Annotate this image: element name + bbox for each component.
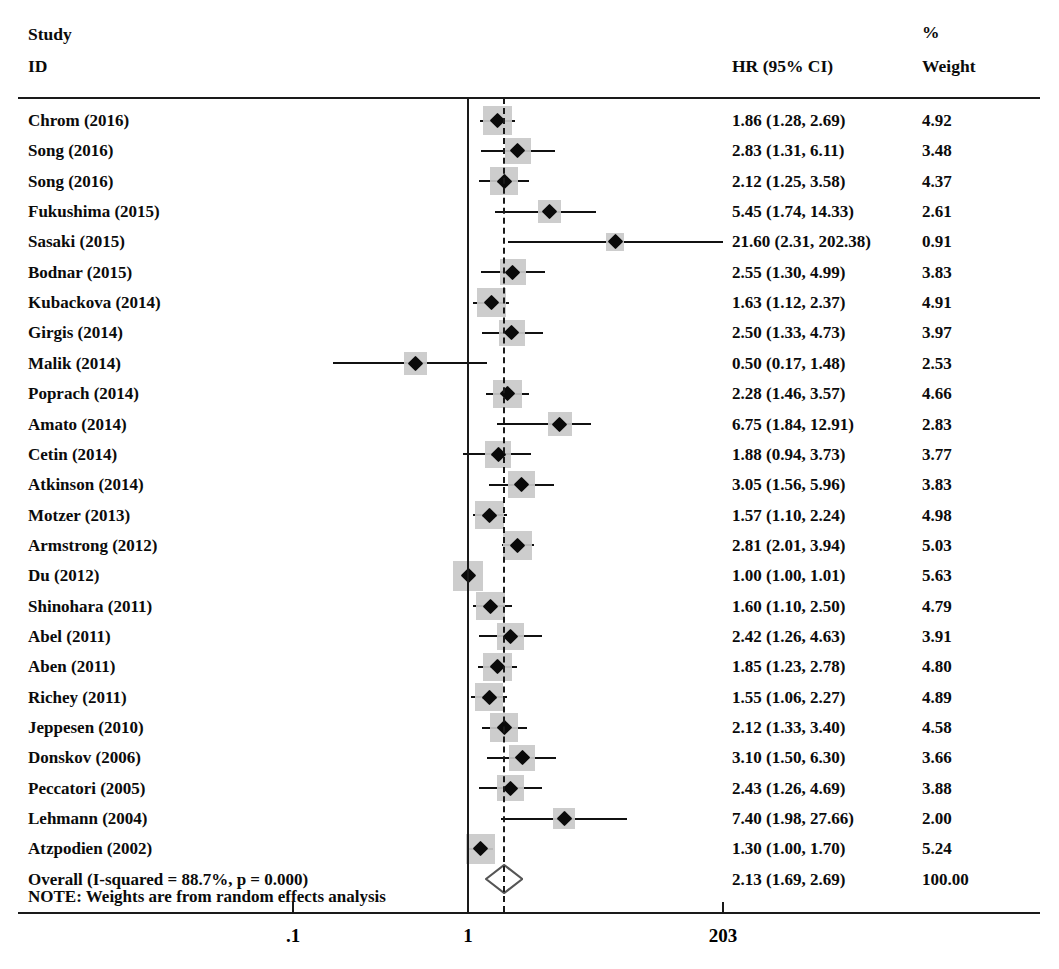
axis-tick-label: 1 (463, 925, 473, 947)
hr-value: 2.12 (1.33, 3.40) (732, 719, 845, 736)
study-label: Motzer (2013) (28, 507, 130, 524)
hr-value: 3.05 (1.56, 5.96) (732, 476, 845, 493)
hr-value: 5.45 (1.74, 14.33) (732, 203, 854, 220)
study-label: Aben (2011) (28, 658, 115, 675)
study-label: Poprach (2014) (28, 385, 139, 402)
header-study-line2: ID (28, 58, 47, 76)
hr-value: 1.55 (1.06, 2.27) (732, 689, 845, 706)
hr-value: 1.60 (1.10, 2.50) (732, 598, 845, 615)
study-label: Song (2016) (28, 173, 113, 190)
hr-value: 2.81 (2.01, 3.94) (732, 537, 845, 554)
weight-value: 3.66 (922, 749, 952, 766)
study-label: Chrom (2016) (28, 112, 129, 129)
forest-plot: Study ID HR (95% CI) % Weight Chrom (201… (0, 0, 1059, 969)
study-label: Donskov (2006) (28, 749, 141, 766)
weight-value: 3.48 (922, 142, 952, 159)
hr-value: 1.86 (1.28, 2.69) (732, 112, 845, 129)
axis-tick-label: 203 (709, 925, 738, 947)
header-study-line1: Study (28, 26, 72, 44)
study-label: Richey (2011) (28, 689, 127, 706)
weight-value: 2.83 (922, 416, 952, 433)
weight-value: 3.83 (922, 264, 952, 281)
study-label: Shinohara (2011) (28, 598, 152, 615)
weight-value: 2.00 (922, 810, 952, 827)
weight-value: 5.03 (922, 537, 952, 554)
axis-tick (722, 902, 724, 913)
hr-value: 2.83 (1.31, 6.11) (732, 142, 844, 159)
header-weight-line1: % (922, 24, 940, 42)
hr-value: 0.50 (0.17, 1.48) (732, 355, 845, 372)
confidence-interval-line (497, 423, 591, 425)
weight-value: 4.98 (922, 507, 952, 524)
study-label: Fukushima (2015) (28, 203, 160, 220)
study-label: Atzpodien (2002) (28, 840, 152, 857)
hr-value: 1.63 (1.12, 2.37) (732, 294, 845, 311)
study-label: Song (2016) (28, 142, 113, 159)
study-label: Jeppesen (2010) (28, 719, 144, 736)
weight-value: 2.61 (922, 203, 952, 220)
overall-hr-value: 2.13 (1.69, 2.69) (732, 871, 845, 888)
study-label: Peccatori (2005) (28, 780, 146, 797)
overall-label: Overall (I-squared = 88.7%, p = 0.000) (28, 871, 308, 888)
study-label: Malik (2014) (28, 355, 121, 372)
weight-value: 4.66 (922, 385, 952, 402)
overall-weight-value: 100.00 (922, 871, 969, 888)
pooled-effect-line (503, 98, 505, 912)
hr-value: 2.28 (1.46, 3.57) (732, 385, 845, 402)
weight-value: 4.58 (922, 719, 952, 736)
hr-value: 2.12 (1.25, 3.58) (732, 173, 845, 190)
weight-value: 4.91 (922, 294, 952, 311)
null-reference-line (467, 98, 469, 912)
hr-value: 7.40 (1.98, 27.66) (732, 810, 854, 827)
axis-rule (18, 912, 1040, 914)
weight-value: 3.91 (922, 628, 952, 645)
study-label: Sasaki (2015) (28, 233, 125, 250)
weight-value: 3.97 (922, 324, 952, 341)
hr-value: 1.85 (1.23, 2.78) (732, 658, 845, 675)
hr-value: 2.42 (1.26, 4.63) (732, 628, 845, 645)
hr-value: 21.60 (2.31, 202.38) (732, 233, 871, 250)
study-label: Du (2012) (28, 567, 99, 584)
weight-value: 0.91 (922, 233, 952, 250)
axis-tick-label: .1 (286, 925, 300, 947)
weight-value: 5.63 (922, 567, 952, 584)
axis-tick (467, 902, 469, 913)
weight-value: 3.83 (922, 476, 952, 493)
header-separator-rule (18, 97, 1040, 99)
weight-value: 2.53 (922, 355, 952, 372)
study-label: Lehmann (2004) (28, 810, 147, 827)
weight-value: 3.88 (922, 780, 952, 797)
hr-value: 6.75 (1.84, 12.91) (732, 416, 854, 433)
header-weight-line2: Weight (922, 58, 975, 76)
weight-value: 4.89 (922, 689, 952, 706)
hr-value: 1.00 (1.00, 1.01) (732, 567, 845, 584)
hr-value: 1.57 (1.10, 2.24) (732, 507, 845, 524)
study-label: Bodnar (2015) (28, 264, 132, 281)
study-label: Abel (2011) (28, 628, 111, 645)
weight-value: 4.92 (922, 112, 952, 129)
study-label: Amato (2014) (28, 416, 127, 433)
note-text: NOTE: Weights are from random effects an… (28, 888, 386, 905)
weight-value: 5.24 (922, 840, 952, 857)
weight-value: 3.77 (922, 446, 952, 463)
axis-tick (292, 902, 294, 913)
study-label: Kubackova (2014) (28, 294, 161, 311)
hr-value: 1.88 (0.94, 3.73) (732, 446, 845, 463)
study-label: Cetin (2014) (28, 446, 117, 463)
header-hr-column: HR (95% CI) (732, 58, 833, 76)
study-label: Atkinson (2014) (28, 476, 144, 493)
weight-value: 4.37 (922, 173, 952, 190)
hr-value: 1.30 (1.00, 1.70) (732, 840, 845, 857)
hr-value: 2.55 (1.30, 4.99) (732, 264, 845, 281)
study-label: Girgis (2014) (28, 324, 123, 341)
hr-value: 3.10 (1.50, 6.30) (732, 749, 845, 766)
weight-value: 4.79 (922, 598, 952, 615)
hr-value: 2.50 (1.33, 4.73) (732, 324, 845, 341)
study-label: Armstrong (2012) (28, 537, 158, 554)
weight-value: 4.80 (922, 658, 952, 675)
hr-value: 2.43 (1.26, 4.69) (732, 780, 845, 797)
